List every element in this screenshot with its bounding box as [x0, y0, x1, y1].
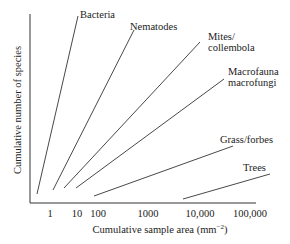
x-axis-label-close: ) [224, 224, 228, 235]
series-label-line: collembola [208, 42, 255, 53]
x-tick-label: 1 [47, 208, 52, 219]
x-axis-label: Cumulative sample area (mm−2) [50, 224, 270, 235]
x-tick-label: 10,000 [186, 208, 215, 219]
y-axis-label: Cumulative number of species [12, 46, 23, 174]
x-axis-label-exponent: −2 [216, 223, 223, 231]
series-label-mites-collembola: Mites/collembola [208, 31, 255, 53]
series-line-mites-collembola [64, 42, 200, 188]
x-tick-label: 100 [90, 208, 106, 219]
series-label-line: Nematodes [130, 21, 177, 32]
series-label-nematodes: Nematodes [130, 21, 177, 32]
series-label-line: Mites/ [208, 31, 255, 42]
x-axis-label-text: Cumulative sample area (mm [93, 224, 217, 235]
series-label-line: Bacteria [80, 9, 115, 20]
series-line-grass-forbes [94, 146, 233, 196]
x-tick-label: 1000 [138, 208, 159, 219]
series-label-line: Trees [243, 162, 266, 173]
series-line-trees [183, 174, 270, 199]
series-label-line: Grass/forbes [220, 134, 273, 145]
series-label-line: Macrofauna [228, 66, 279, 77]
series-label-trees: Trees [243, 162, 266, 173]
series-label-line: macrofungi [228, 77, 279, 88]
series-label-macrofauna-macrofungi: Macrofaunamacrofungi [228, 66, 279, 88]
series-label-bacteria: Bacteria [80, 9, 115, 20]
series-label-grass-forbes: Grass/forbes [220, 134, 273, 145]
x-tick-label: 10 [72, 208, 83, 219]
series-line-nematodes [53, 30, 134, 190]
series-line-bacteria [37, 16, 78, 194]
x-tick-label: 100,000 [233, 208, 267, 219]
